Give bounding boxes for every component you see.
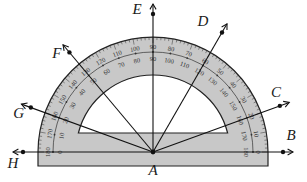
point-h-dot <box>21 150 25 154</box>
scale-dot <box>75 87 77 89</box>
scale-dot <box>102 64 104 66</box>
scale-dot <box>169 53 171 55</box>
scale-dot <box>239 101 241 103</box>
diagram-canvas: 0180101702016030150401405013060120701108… <box>0 0 307 182</box>
point-f-dot <box>67 50 71 54</box>
label-e: E <box>131 1 141 17</box>
scale-dot <box>186 57 188 59</box>
scale-dot <box>251 134 253 136</box>
label-h: H <box>7 155 20 171</box>
outer-scale-number: 10 <box>252 130 260 138</box>
inner-scale-number: 10 <box>57 132 65 140</box>
scale-dot <box>54 134 56 136</box>
scale-dot <box>135 53 137 55</box>
point-g-dot <box>29 105 33 109</box>
protractor-diagram: 0180101702016030150401405013060120701108… <box>0 0 307 182</box>
label-d: D <box>197 13 209 29</box>
label-c: C <box>271 84 282 100</box>
inner-scale-number: 80 <box>133 56 141 64</box>
label-b: B <box>286 127 295 143</box>
scale-dot <box>118 57 120 59</box>
vertex-a-dot <box>151 150 156 155</box>
scale-dot <box>216 74 218 76</box>
scale-dot <box>229 87 231 89</box>
point-e-dot <box>151 12 155 16</box>
label-a: A <box>147 162 158 178</box>
point-b-dot <box>281 150 285 154</box>
label-g: G <box>13 105 24 121</box>
point-d-dot <box>220 30 224 34</box>
outer-scale-number: 80 <box>167 45 175 53</box>
label-f: F <box>51 45 62 61</box>
scale-dot <box>65 101 67 103</box>
point-c-dot <box>278 104 282 108</box>
